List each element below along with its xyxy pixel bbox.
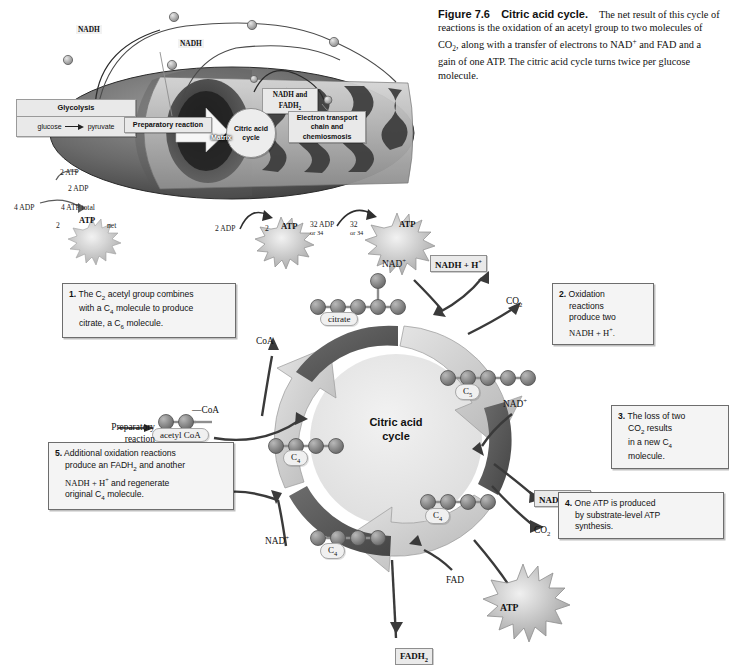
step-3-line2a: CO: [628, 423, 641, 433]
cycle-2-label: 2: [265, 224, 269, 233]
step-5-line3b: and regenerate: [109, 478, 170, 488]
nadh-fadh2-line1: NADH and: [273, 91, 308, 99]
nadh-label-glycolysis: NADH: [76, 25, 102, 34]
fadh2-text: FADH: [400, 651, 425, 661]
step-1-line3: citrate, a C6 molecule.: [69, 318, 229, 332]
co2-top-sub: 2: [519, 301, 522, 308]
step-2-line1: Oxidation: [569, 289, 605, 299]
atp-2atp-label: 2 ATP: [60, 168, 79, 177]
fadh2-product: FADH2: [395, 648, 433, 665]
step-5-line4a: original C: [65, 489, 101, 499]
molecule-c4-left: C4: [283, 450, 308, 466]
nad-bottom-sup: +: [285, 534, 289, 541]
nad-bottom-text: NAD: [265, 536, 285, 546]
matrix-label: Matrix: [211, 134, 232, 141]
step-3-line3: in a new C4: [618, 437, 722, 451]
co2-top: CO2: [506, 296, 522, 308]
step-2-line4: NADH + H+.: [559, 324, 647, 339]
atp-2adp-label: 2 ADP: [68, 184, 88, 193]
etc-32adp-line1: 32 ADP: [310, 220, 334, 229]
coa-released-label: CoA: [256, 336, 274, 346]
step-5-line2: produce an FADH2 and another: [55, 460, 227, 474]
co2-right-sub: 2: [547, 530, 550, 537]
molecule-citrate: citrate: [320, 312, 358, 326]
cycle-center-label: Citric acid cycle: [341, 415, 451, 443]
fad-label: FAD: [446, 575, 464, 585]
caption-line-2b: ,: [456, 39, 459, 50]
atp-net-word: net: [107, 221, 116, 230]
nad-top-text: NAD: [382, 259, 402, 269]
step-5-line3: NADH + H+ and regenerate: [55, 474, 227, 489]
step-1-line2b: molecule to produce: [114, 303, 194, 313]
step-3-line3a: in a new C: [628, 437, 669, 447]
coa-bond-label: —CoA: [192, 405, 219, 415]
figure-caption: Figure 7.6 Citric acid cycle. The net re…: [438, 8, 720, 82]
cycle-atp-burst-label: ATP: [281, 221, 298, 231]
co2-right: CO2: [534, 525, 550, 537]
step-box-5: 5. Additional oxidation reactions produc…: [48, 442, 234, 510]
figure-number: Figure 7.6: [438, 8, 490, 20]
nad-plus-top: NAD+: [382, 257, 406, 269]
atp-net-burst-label: ATP: [79, 216, 95, 225]
nad-plus-right: NAD+: [503, 397, 527, 409]
nad-top-sup: +: [402, 257, 406, 264]
preparatory-reaction-box: Preparatory reaction: [124, 117, 212, 133]
step-5-line4b: molecule.: [105, 489, 144, 499]
molecule-c4-bottom: C4: [320, 543, 345, 559]
step-1-line3a: citrate, a C: [79, 318, 121, 328]
step-box-4: 4. One ATP is produced by substrate-leve…: [558, 492, 724, 539]
citric-acid-cycle-diagram: citrate C5 C4 C4 C4 acetyl CoA Citric ac…: [0, 250, 726, 563]
figure-title: Citric acid cycle.: [501, 8, 588, 20]
step-4-line2: by substrate-level ATP: [565, 510, 717, 522]
step-3-line1: The loss of two: [627, 411, 685, 421]
step-4-line3: synthesis.: [565, 521, 717, 533]
coa-bond-text: CoA: [201, 405, 219, 415]
step-5-line1: Additional oxidation reactions: [64, 448, 176, 458]
citrate-label: citrate: [328, 314, 350, 324]
step-1-line1b: acetyl group combines: [105, 289, 193, 299]
step-3-line2b: results: [644, 423, 672, 433]
nad-right-sup: +: [523, 397, 527, 404]
c4-right-sub: 4: [439, 515, 442, 522]
atp-2-label: 2: [56, 221, 60, 230]
step-3-line4: molecule.: [618, 451, 722, 463]
step-5-line2b: and another: [137, 460, 185, 470]
step-box-1: 1. The C2 acetyl group combines with a C…: [62, 283, 236, 338]
step-4-line1: One ATP is produced: [575, 498, 656, 508]
cycle-center-line1: Citric acid: [369, 416, 422, 428]
step-2-line2: reactions: [559, 301, 647, 313]
step-1-line1a: The C: [78, 289, 101, 299]
prep-line1: Preparatory: [111, 422, 155, 432]
step-3-line2: CO2 results: [618, 423, 722, 437]
fadh2-sub2: 2: [425, 655, 428, 662]
step-4-number: 4.: [565, 498, 572, 508]
caption-line-1: The net result of this cycle of: [599, 9, 720, 20]
step-1-line3b: molecule.: [124, 318, 163, 328]
molecule-acetyl-coa: acetyl CoA: [152, 428, 209, 442]
etc-32-line2: or 34: [350, 229, 363, 236]
atp-4-total-label: 4 ATP total: [61, 203, 95, 212]
c4-left-sub: 4: [297, 457, 300, 464]
c4-bottom-sub: 4: [334, 550, 337, 557]
step-3-number: 3.: [618, 411, 625, 421]
atp-burst: [483, 564, 570, 642]
step-5-line4: original C4 molecule.: [55, 489, 227, 503]
etc-atp-burst-label: ATP: [399, 219, 416, 229]
step-5-line3a: NADH + H: [65, 478, 105, 488]
etc-32-line1: 32: [350, 220, 358, 229]
atp-4adp-label: 4 ADP: [14, 203, 34, 212]
molecule-c4-right: C4: [425, 508, 450, 524]
step-1-number: 1.: [69, 289, 76, 299]
step-1-line2a: with a C: [79, 303, 110, 313]
etc-32adp-line2: or 34: [310, 229, 323, 236]
step-box-2: 2. Oxidation reactions produce two NADH …: [552, 283, 654, 345]
mitochondrion-overview-panel: Glycolysis glucose pyruvate Preparatory …: [0, 0, 436, 250]
etc-32adp-label: 32 ADP or 34: [310, 221, 334, 237]
step-2-line4b: .: [613, 328, 615, 338]
right-arrow-icon: [65, 124, 85, 130]
co2-right-text: CO: [534, 525, 547, 535]
step-2-line3: produce two: [559, 312, 647, 324]
co2-top-text: CO: [506, 296, 519, 306]
nad-plus-bottom: NAD+: [265, 534, 289, 546]
glycolysis-substrate: glucose: [38, 117, 62, 136]
